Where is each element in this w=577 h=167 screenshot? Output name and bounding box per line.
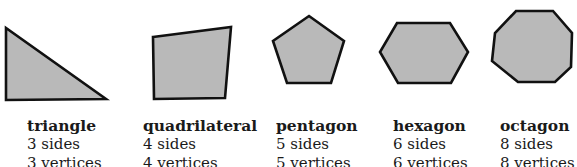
triangle-shape (6, 28, 106, 100)
vertices-count: 8 vertices (500, 154, 575, 167)
polygon-name: octagon (500, 116, 575, 135)
vertices-count: 4 vertices (143, 154, 257, 167)
hexagon-shape (380, 23, 468, 83)
sides-count: 3 sides (27, 135, 102, 154)
vertices-count: 3 vertices (27, 154, 102, 167)
sides-count: 8 sides (500, 135, 575, 154)
polygon-figure (0, 0, 577, 110)
octagon-label: octagon 8 sides 8 vertices (500, 116, 575, 167)
pentagon-shape (273, 16, 344, 83)
pentagon-label: pentagon 5 sides 5 vertices (276, 116, 358, 167)
polygon-name: triangle (27, 116, 102, 135)
polygon-name: pentagon (276, 116, 358, 135)
hexagon-label: hexagon 6 sides 6 vertices (393, 116, 468, 167)
octagon-shape (492, 11, 572, 82)
quadrilateral-shape (153, 27, 231, 99)
triangle-label: triangle 3 sides 3 vertices (27, 116, 102, 167)
sides-count: 6 sides (393, 135, 468, 154)
vertices-count: 6 vertices (393, 154, 468, 167)
sides-count: 4 sides (143, 135, 257, 154)
polygon-name: quadrilateral (143, 116, 257, 135)
sides-count: 5 sides (276, 135, 358, 154)
quadrilateral-label: quadrilateral 4 sides 4 vertices (143, 116, 257, 167)
vertices-count: 5 vertices (276, 154, 358, 167)
polygon-name: hexagon (393, 116, 468, 135)
